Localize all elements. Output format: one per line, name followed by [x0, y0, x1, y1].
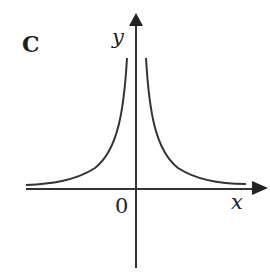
- curve-left-branch: [26, 58, 127, 185]
- y-axis-arrow-icon: [129, 13, 143, 26]
- graph-figure: C y x 0: [0, 0, 270, 274]
- origin-label: 0: [115, 194, 128, 218]
- x-axis-label: x: [231, 190, 243, 214]
- curve-right-branch: [146, 58, 246, 184]
- y-axis-label: y: [111, 25, 125, 49]
- x-axis-arrow-icon: [252, 181, 268, 195]
- panel-label: C: [22, 31, 40, 57]
